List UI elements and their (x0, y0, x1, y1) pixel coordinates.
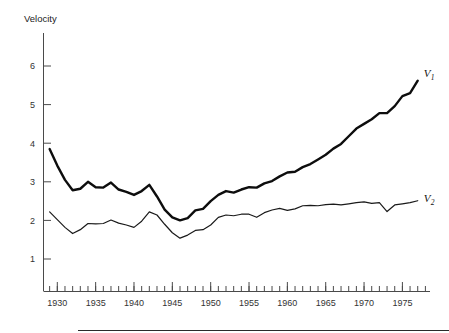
x-tick-label: 1970 (354, 298, 374, 308)
y-tick-label: 5 (30, 100, 35, 110)
series-label-v2-subscript: 2 (431, 198, 435, 207)
x-tick-label: 1965 (316, 298, 336, 308)
x-tick-label: 1960 (277, 298, 297, 308)
x-tick-label: 1955 (239, 298, 259, 308)
x-tick-label: 1975 (392, 298, 412, 308)
y-tick-label: 6 (30, 61, 35, 71)
series-label-v1-subscript: 1 (431, 73, 435, 82)
x-tick-label: 1935 (86, 298, 106, 308)
chart-canvas: Velocity 123456 193019351940194519501955… (0, 0, 449, 333)
y-axis-title: Velocity (24, 13, 57, 24)
y-tick-label: 1 (30, 254, 35, 264)
chart-background (0, 0, 449, 333)
y-tick-label: 2 (30, 216, 35, 226)
x-tick-label: 1930 (47, 298, 67, 308)
y-tick-label: 4 (30, 139, 35, 149)
velocity-chart-figure: Velocity 123456 193019351940194519501955… (0, 0, 449, 333)
x-tick-label: 1940 (124, 298, 144, 308)
y-tick-label: 3 (30, 177, 35, 187)
x-tick-label: 1950 (201, 298, 221, 308)
x-tick-label: 1945 (162, 298, 182, 308)
